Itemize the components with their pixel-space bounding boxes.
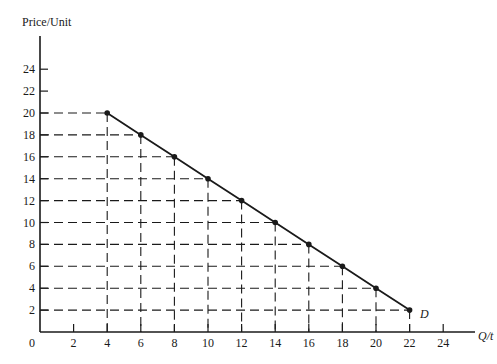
y-tick-label: 24 bbox=[23, 62, 35, 76]
y-tick-label: 18 bbox=[23, 128, 35, 142]
data-point bbox=[239, 198, 245, 204]
x-tick-label: 24 bbox=[437, 336, 449, 350]
x-tick-label: 12 bbox=[236, 336, 248, 350]
x-tick-label: 4 bbox=[104, 336, 110, 350]
data-point bbox=[104, 110, 110, 116]
data-point bbox=[340, 264, 346, 270]
data-point bbox=[272, 220, 278, 226]
projection-lines bbox=[40, 113, 410, 332]
demand-chart: 2468101214161820222402468101214161820222… bbox=[0, 0, 497, 364]
x-tick-label: 16 bbox=[303, 336, 315, 350]
x-tick-label: 0 bbox=[29, 336, 35, 350]
data-point bbox=[373, 285, 379, 291]
y-axis-label: Price/Unit bbox=[22, 15, 72, 29]
demand-line bbox=[107, 113, 409, 310]
y-tick-label: 22 bbox=[23, 84, 35, 98]
y-tick-label: 16 bbox=[23, 150, 35, 164]
x-tick-label: 14 bbox=[269, 336, 281, 350]
x-tick-label: 6 bbox=[138, 336, 144, 350]
y-tick-label: 2 bbox=[29, 303, 35, 317]
x-tick-label: 2 bbox=[71, 336, 77, 350]
axes bbox=[40, 36, 475, 332]
y-tick-label: 12 bbox=[23, 194, 35, 208]
x-tick-label: 8 bbox=[171, 336, 177, 350]
data-point bbox=[306, 242, 312, 248]
y-tick-label: 20 bbox=[23, 106, 35, 120]
y-tick-label: 14 bbox=[23, 172, 35, 186]
data-point bbox=[407, 307, 413, 313]
demand-curve bbox=[104, 110, 412, 313]
x-tick-label: 22 bbox=[404, 336, 416, 350]
data-point bbox=[138, 132, 144, 138]
tick-labels: 2468101214161820222402468101214161820222… bbox=[23, 62, 449, 350]
y-tick-label: 4 bbox=[29, 281, 35, 295]
y-tick-label: 8 bbox=[29, 237, 35, 251]
data-point bbox=[172, 154, 178, 160]
y-tick-label: 6 bbox=[29, 259, 35, 273]
x-tick-label: 10 bbox=[202, 336, 214, 350]
x-axis-label: Q/t bbox=[478, 329, 494, 343]
data-point bbox=[205, 176, 211, 182]
x-tick-label: 18 bbox=[336, 336, 348, 350]
y-tick-label: 10 bbox=[23, 216, 35, 230]
x-tick-label: 20 bbox=[370, 336, 382, 350]
curve-label-d: D bbox=[419, 307, 429, 321]
